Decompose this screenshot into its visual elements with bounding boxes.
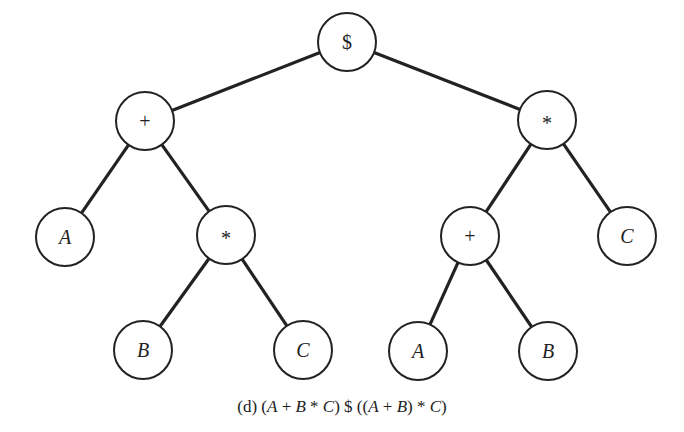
expression-tree-diagram: $+*A*+CBCAB bbox=[0, 0, 684, 432]
tree-node-plus-left: + bbox=[116, 92, 174, 150]
node-label: $ bbox=[342, 31, 352, 53]
caption-part: B bbox=[295, 397, 305, 416]
caption-part: A bbox=[368, 397, 378, 416]
caption-part: A bbox=[267, 397, 277, 416]
edge-plus-left-a-left bbox=[81, 145, 128, 213]
tree-nodes: $+*A*+CBCAB bbox=[36, 13, 656, 380]
node-label: B bbox=[542, 340, 554, 362]
edge-root-times-right bbox=[374, 53, 520, 110]
caption-part: + bbox=[277, 397, 295, 416]
tree-node-b-right: B bbox=[519, 322, 577, 380]
tree-node-a-left: A bbox=[36, 208, 94, 266]
caption-part: (d) ( bbox=[237, 397, 267, 416]
edge-times-left-c-left bbox=[242, 259, 287, 326]
node-label: + bbox=[464, 225, 475, 247]
tree-node-c-left: C bbox=[274, 321, 332, 379]
edge-times-right-plus-right bbox=[486, 144, 531, 212]
node-label: C bbox=[296, 339, 310, 361]
tree-node-a-right: A bbox=[389, 322, 447, 380]
tree-node-times-left: * bbox=[197, 206, 255, 264]
node-label: A bbox=[410, 340, 425, 362]
caption-part: ) $ (( bbox=[334, 397, 368, 416]
tree-node-root: $ bbox=[318, 13, 376, 71]
caption-part: C bbox=[430, 397, 441, 416]
tree-node-plus-right: + bbox=[441, 207, 499, 265]
caption-part: ) * bbox=[407, 397, 430, 416]
tree-node-c-right: C bbox=[598, 207, 656, 265]
edge-times-right-c-right bbox=[563, 144, 610, 212]
node-label: * bbox=[542, 112, 552, 134]
tree-edges bbox=[81, 53, 610, 327]
node-label: * bbox=[221, 227, 231, 249]
edge-root-plus-left bbox=[172, 53, 320, 111]
caption-part: + bbox=[379, 397, 397, 416]
node-label: B bbox=[137, 339, 149, 361]
figure-caption: (d) (A + B * C) $ ((A + B) * C) bbox=[0, 397, 684, 417]
caption-part: C bbox=[323, 397, 334, 416]
edge-plus-left-times-left bbox=[162, 145, 209, 212]
tree-node-b-left: B bbox=[114, 321, 172, 379]
caption-part: B bbox=[397, 397, 407, 416]
edge-times-left-b-left bbox=[160, 259, 209, 327]
edge-plus-right-b-right bbox=[486, 260, 531, 327]
tree-node-times-right: * bbox=[518, 91, 576, 149]
edge-plus-right-a-right bbox=[430, 262, 458, 324]
node-label: + bbox=[139, 110, 150, 132]
node-label: A bbox=[57, 226, 72, 248]
node-label: C bbox=[620, 225, 634, 247]
caption-part: * bbox=[306, 397, 323, 416]
caption-part: ) bbox=[441, 397, 447, 416]
